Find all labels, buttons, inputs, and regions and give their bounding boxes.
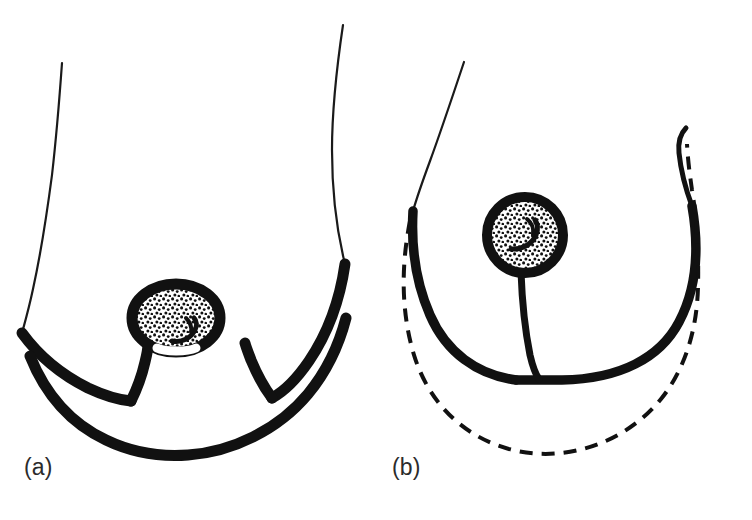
panel-label-b: (b) — [392, 456, 421, 479]
anatomical-line-drawing — [0, 0, 752, 520]
panel-label-a: (a) — [24, 456, 53, 479]
figure-container: (a) (b) — [0, 0, 752, 520]
areola-base-gap-a — [157, 348, 196, 351]
